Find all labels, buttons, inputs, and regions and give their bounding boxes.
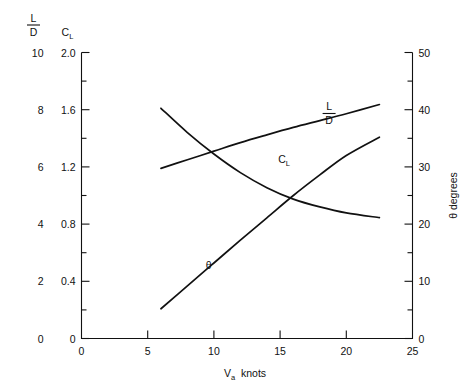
curve-label-ld-numerator: L	[326, 100, 332, 112]
right-axis-title: θ degrees	[447, 172, 459, 219]
left-inner-tick-label: 2.0	[61, 47, 76, 59]
left-outer-axis-title-numerator: L	[31, 12, 37, 24]
left-outer-tick-label: 2	[38, 275, 44, 287]
right-axis-tick-label: 30	[419, 161, 431, 173]
left-inner-tick-label: 0	[70, 333, 76, 345]
curve-c-l	[161, 108, 379, 217]
x-axis-tick-label: 5	[145, 345, 151, 357]
curve-label-theta: θ	[206, 259, 212, 271]
left-inner-axis-title: CL	[62, 26, 74, 41]
right-axis-tick-label: 40	[419, 104, 431, 116]
left-outer-tick-label: 8	[38, 104, 44, 116]
left-outer-tick-label: 6	[38, 161, 44, 173]
chart-figure: 000.420.841.261.682.01001020304050051015…	[0, 0, 470, 382]
left-inner-tick-label: 0.4	[61, 275, 76, 287]
x-axis-title: Va knots	[224, 367, 266, 382]
curve-label-ld-denominator: D	[325, 114, 333, 126]
right-axis-tick-label: 10	[419, 275, 431, 287]
left-inner-tick-label: 0.8	[61, 218, 76, 230]
x-axis-tick-label: 10	[208, 345, 220, 357]
left-outer-tick-label: 4	[38, 218, 44, 230]
left-outer-tick-label: 10	[32, 47, 44, 59]
curve-label-cl-sub: L	[286, 159, 290, 168]
curve-label-cl: CL	[278, 153, 290, 168]
right-axis-tick-label: 20	[419, 218, 431, 230]
curve-theta	[161, 137, 379, 309]
curve-l-d	[161, 105, 379, 169]
left-inner-tick-label: 1.2	[61, 161, 76, 173]
x-axis-tick-label: 15	[274, 345, 286, 357]
x-axis-tick-label: 0	[79, 345, 85, 357]
x-axis-title-main: V	[224, 367, 231, 379]
chart-svg: 000.420.841.261.682.01001020304050051015…	[0, 0, 470, 382]
x-axis-tick-label: 25	[407, 345, 419, 357]
right-axis-tick-label: 0	[419, 333, 425, 345]
x-axis-tick-label: 20	[340, 345, 352, 357]
left-inner-axis-title-sub: L	[69, 32, 73, 41]
right-axis-tick-label: 50	[419, 47, 431, 59]
left-outer-tick-label: 0	[38, 333, 44, 345]
left-inner-tick-label: 1.6	[61, 104, 76, 116]
axis-frame	[82, 53, 413, 339]
x-axis-title-tail: knots	[235, 367, 266, 379]
left-outer-axis-title-denominator: D	[30, 26, 38, 38]
